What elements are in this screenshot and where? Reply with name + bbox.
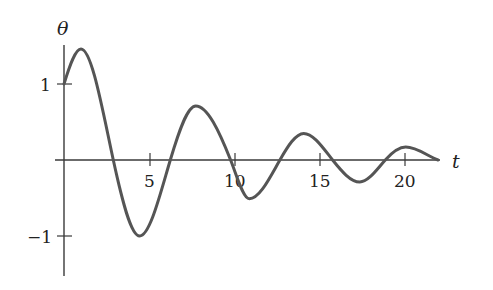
chart: θ t 1 −1 5 10 15 20	[0, 0, 493, 290]
theta-curve	[64, 49, 438, 236]
x-tick-label-5: 5	[144, 171, 155, 191]
y-axis-label: θ	[57, 17, 69, 39]
y-tick-label-1: 1	[40, 75, 51, 95]
x-axis-label: t	[452, 150, 460, 172]
x-tick-label-15: 15	[309, 171, 331, 191]
y-tick-label-minus1: −1	[27, 227, 52, 247]
x-tick-label-20: 20	[394, 171, 416, 191]
